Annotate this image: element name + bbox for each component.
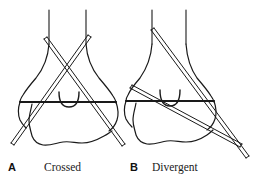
panel-a-pin-1-edge-2 <box>47 37 125 144</box>
panel-b-title: Divergent <box>152 157 198 177</box>
panel-b-pin-2-edge-2 <box>132 85 242 144</box>
panel-a-medial-flare <box>20 44 49 102</box>
panel-b-talus-outline <box>133 103 213 144</box>
panel-a-talus-outline <box>29 104 112 145</box>
panel-a-pin-2-edge-2 <box>11 35 88 143</box>
panel-b-plafond-arc <box>160 90 180 106</box>
panel-a-pin-1-head <box>44 37 47 39</box>
panel-b-drawing <box>125 10 250 158</box>
panel-b-lateral-flare <box>186 44 214 102</box>
panel-a-title: Crossed <box>44 157 81 177</box>
panel-a-lateral-flare <box>86 44 116 103</box>
panel-a-pin-1-tip <box>122 144 125 146</box>
panel-a-pin-2-tip <box>11 143 14 145</box>
figure-panel-pair: A Crossed B Divergent <box>0 0 254 181</box>
figure-caption-row: A Crossed B Divergent <box>0 157 254 177</box>
figure-illustration <box>0 0 254 181</box>
panel-b-pin-2-edge-1 <box>130 88 240 147</box>
panel-b-letter: B <box>130 157 138 177</box>
panel-a-letter: A <box>8 157 16 177</box>
panel-a-drawing <box>11 10 125 146</box>
panel-a-talus-right-edge <box>109 102 118 131</box>
panel-a-plafond-arc <box>59 92 79 107</box>
panel-b-talus-left-edge <box>125 101 133 127</box>
panel-a-pin-2-head <box>88 35 91 37</box>
panel-b-pin-1-edge-2 <box>154 28 249 156</box>
